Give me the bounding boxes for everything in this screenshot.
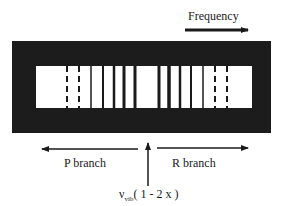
center-formula: ( 1 - 2 x ) [133, 187, 178, 201]
p-branch-label: P branch [64, 157, 106, 169]
frequency-label: Frequency [188, 10, 239, 22]
spectrum-diagram [0, 0, 284, 206]
spectrum-window [36, 66, 252, 108]
band-center-label: νvib( 1 - 2 x ) [119, 188, 178, 203]
r-branch-label: R branch [172, 157, 216, 169]
